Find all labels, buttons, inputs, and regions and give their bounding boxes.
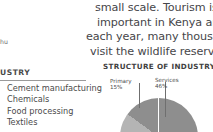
industry-list-heading: USTRY (0, 68, 97, 77)
list-item: Textiles (7, 117, 97, 128)
pie-label-services: Services 46% (155, 77, 179, 90)
chart-plot-area: Primary 15% Services 46% (103, 73, 213, 132)
paragraph-line: important in Kenya and Tanza (97, 16, 213, 31)
pie-label-primary-name: Primary (110, 78, 132, 84)
paragraph-line: visit the wildlife reserves there. (90, 45, 213, 60)
page-canvas: small scale. Tourism is increa important… (0, 0, 213, 132)
paragraph-line: small scale. Tourism is increa (95, 1, 213, 16)
margin-text-fragment: hu (0, 38, 8, 45)
pie-slice-divider (158, 98, 159, 132)
pie-label-services-percent: 46% (155, 83, 179, 89)
industry-list: Cement manufacturing Chemicals Food proc… (0, 83, 97, 128)
industry-list-panel: USTRY Cement manufacturing Chemicals Foo… (0, 68, 97, 128)
structure-of-industry-chart: STRUCTURE OF INDUSTRY Primary 15% Servic… (103, 62, 213, 132)
pie-graphic (120, 98, 198, 132)
pie-label-primary: Primary 15% (110, 78, 132, 91)
body-paragraph: small scale. Tourism is increa important… (86, 1, 213, 59)
list-item: Food processing (7, 106, 97, 117)
chart-title: STRUCTURE OF INDUSTRY (103, 62, 213, 71)
list-item: Cement manufacturing (7, 83, 97, 94)
pie-label-primary-percent: 15% (110, 84, 132, 90)
pie-label-services-name: Services (155, 77, 179, 83)
paragraph-line: each year, many thousands of (86, 30, 213, 45)
list-item: Chemicals (7, 94, 97, 105)
leader-line-primary (139, 83, 140, 108)
heading-divider (0, 80, 86, 81)
